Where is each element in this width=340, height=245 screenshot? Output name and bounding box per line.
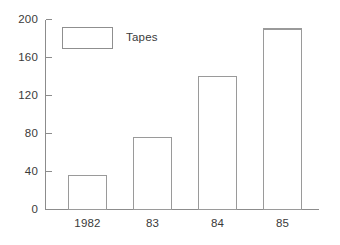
y-tick-label-40: 40 (6, 166, 38, 178)
x-tick-label-1982: 1982 (63, 218, 113, 230)
x-tick-label-84: 84 (193, 218, 243, 230)
bar-85 (264, 29, 302, 210)
y-tick-label-0: 0 (6, 204, 38, 216)
y-tick-label-160: 160 (6, 52, 38, 64)
y-axis-tick-labels: 04080120160200 (0, 0, 38, 245)
y-tick-label-200: 200 (6, 14, 38, 26)
bar-83 (134, 137, 172, 209)
bar-84 (199, 77, 237, 210)
bar-chart: 04080120160200 1982838485 Tapes (0, 0, 340, 245)
x-tick-label-85: 85 (258, 218, 308, 230)
x-tick-label-83: 83 (128, 218, 178, 230)
y-tick-label-120: 120 (6, 90, 38, 102)
bars-group (69, 29, 302, 210)
legend-swatch-tapes (63, 28, 113, 49)
y-tick-label-80: 80 (6, 128, 38, 140)
legend-swatch-group (63, 28, 113, 49)
chart-canvas (0, 0, 340, 245)
bar-1982 (69, 175, 107, 209)
y-axis-ticks (46, 20, 52, 210)
legend-label-tapes: Tapes (126, 32, 158, 44)
